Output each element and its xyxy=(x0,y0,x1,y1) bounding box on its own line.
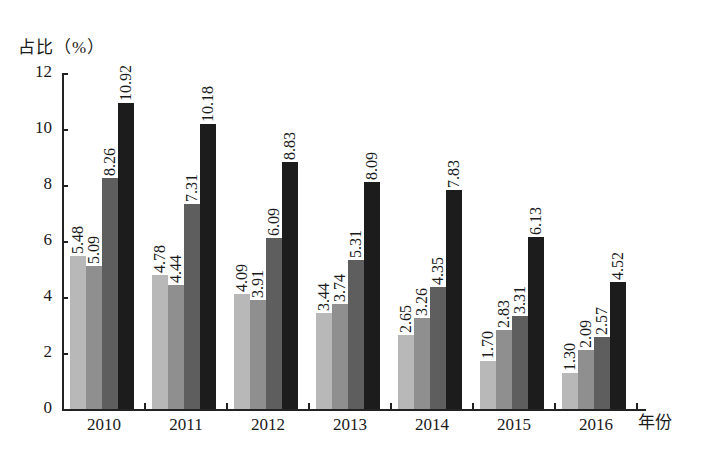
bar xyxy=(86,266,102,409)
bar-value-label: 6.09 xyxy=(266,208,282,236)
x-tick-mark xyxy=(390,403,392,409)
bar xyxy=(234,294,250,409)
bar-value-label: 5.09 xyxy=(86,236,102,264)
bar xyxy=(266,238,282,409)
x-tick-mark xyxy=(308,403,310,409)
y-tick-label: 2 xyxy=(22,342,52,362)
bar-value-label: 4.78 xyxy=(152,245,168,273)
bar xyxy=(528,237,544,409)
bar-value-label: 2.09 xyxy=(578,320,594,348)
y-tick-mark xyxy=(62,185,68,187)
bar xyxy=(480,361,496,409)
bar-value-label: 4.52 xyxy=(610,252,626,280)
y-tick-mark xyxy=(62,409,68,411)
bar-value-label: 2.57 xyxy=(594,307,610,335)
x-axis-line xyxy=(62,409,646,411)
bar-value-label: 5.48 xyxy=(70,226,86,254)
bar-value-label: 10.92 xyxy=(118,65,134,101)
x-tick-mark xyxy=(472,403,474,409)
bar xyxy=(414,318,430,409)
y-tick-mark xyxy=(62,297,68,299)
y-tick-label: 8 xyxy=(22,174,52,194)
bar-value-label: 1.30 xyxy=(562,343,578,371)
bar xyxy=(496,330,512,409)
bar-value-label: 2.65 xyxy=(398,305,414,333)
bar xyxy=(348,260,364,409)
x-tick-label: 2012 xyxy=(238,415,298,435)
bar xyxy=(70,256,86,409)
x-tick-label: 2016 xyxy=(566,415,626,435)
bar xyxy=(316,313,332,409)
bar xyxy=(200,124,216,409)
y-tick-mark xyxy=(62,129,68,131)
bar xyxy=(250,300,266,409)
bar-value-label: 3.44 xyxy=(316,283,332,311)
y-tick-label: 6 xyxy=(22,230,52,250)
y-tick-label: 4 xyxy=(22,286,52,306)
bar-value-label: 5.31 xyxy=(348,230,364,258)
bar xyxy=(512,316,528,409)
y-tick-mark xyxy=(62,73,68,75)
x-tick-label: 2010 xyxy=(74,415,134,435)
bar xyxy=(578,350,594,409)
y-tick-mark xyxy=(62,353,68,355)
bar-value-label: 4.09 xyxy=(234,264,250,292)
bar xyxy=(102,178,118,409)
bar xyxy=(562,373,578,409)
bar xyxy=(282,162,298,409)
bar-value-label: 8.09 xyxy=(364,152,380,180)
bar xyxy=(594,337,610,409)
bar xyxy=(430,287,446,409)
bar xyxy=(332,304,348,409)
x-tick-label: 2015 xyxy=(484,415,544,435)
bar xyxy=(168,285,184,409)
bar xyxy=(152,275,168,409)
x-tick-mark xyxy=(144,403,146,409)
x-axis-title: 年份 xyxy=(638,408,672,433)
bar xyxy=(398,335,414,409)
bar xyxy=(184,204,200,409)
x-tick-mark xyxy=(636,403,638,409)
bar-value-label: 2.83 xyxy=(496,300,512,328)
y-tick-mark xyxy=(62,241,68,243)
bar-value-label: 3.74 xyxy=(332,274,348,302)
bar-value-label: 10.18 xyxy=(200,86,216,122)
bar-value-label: 6.13 xyxy=(528,207,544,235)
bar-value-label: 8.83 xyxy=(282,132,298,160)
bar-value-label: 3.31 xyxy=(512,286,528,314)
y-tick-label: 10 xyxy=(22,118,52,138)
bar-value-label: 7.31 xyxy=(184,174,200,202)
y-tick-label: 12 xyxy=(22,62,52,82)
x-tick-mark xyxy=(226,403,228,409)
x-tick-label: 2013 xyxy=(320,415,380,435)
bar-value-label: 8.26 xyxy=(102,148,118,176)
bar xyxy=(364,182,380,409)
bar xyxy=(446,190,462,409)
bar xyxy=(118,103,134,409)
x-tick-label: 2011 xyxy=(156,415,216,435)
bar-value-label: 3.26 xyxy=(414,288,430,316)
y-axis-title: 占比（%） xyxy=(18,33,105,58)
x-tick-mark xyxy=(554,403,556,409)
bar-value-label: 1.70 xyxy=(480,331,496,359)
x-tick-label: 2014 xyxy=(402,415,462,435)
bar-chart: 占比（%） 年份 024681012 201020112012201320142… xyxy=(0,0,713,462)
bar-value-label: 4.44 xyxy=(168,255,184,283)
bar-value-label: 3.91 xyxy=(250,270,266,298)
bar-value-label: 7.83 xyxy=(446,160,462,188)
bar-value-label: 4.35 xyxy=(430,257,446,285)
bar xyxy=(610,282,626,409)
y-tick-label: 0 xyxy=(22,398,52,418)
